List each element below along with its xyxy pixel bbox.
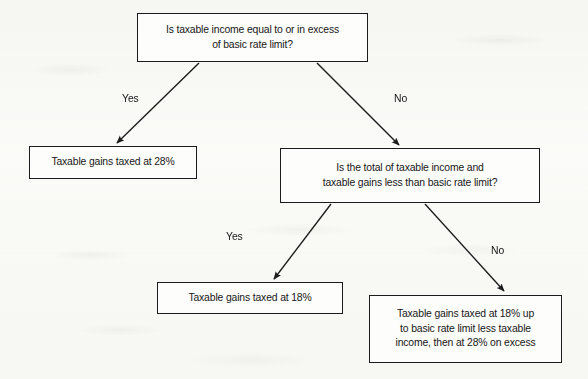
node-outcome-28-percent[interactable]: Taxable gains taxed at 28% — [29, 146, 197, 179]
node-outcome-split-rate[interactable]: Taxable gains taxed at 18% up to basic r… — [369, 295, 562, 363]
edge-decision2-yes — [274, 204, 331, 279]
flowchart-page: Is taxable income equal to or in excess … — [0, 0, 588, 379]
node-root-decision[interactable]: Is taxable income equal to or in excess … — [137, 13, 368, 62]
node-outcome-18-percent[interactable]: Taxable gains taxed at 18% — [157, 282, 343, 314]
edge-label-decision2-no: No — [491, 245, 504, 257]
node-root-text: Is taxable income equal to or in excess … — [166, 23, 339, 52]
node-second-decision[interactable]: Is the total of taxable income and taxab… — [280, 148, 540, 203]
edge-label-decision2-yes: Yes — [226, 231, 243, 243]
edge-root-no — [317, 63, 399, 145]
node-outcome-split-rate-text: Taxable gains taxed at 18% up to basic r… — [395, 307, 535, 351]
edge-label-root-yes: Yes — [122, 93, 139, 105]
node-second-decision-text: Is the total of taxable income and taxab… — [323, 161, 498, 190]
edge-label-root-no: No — [394, 93, 407, 105]
